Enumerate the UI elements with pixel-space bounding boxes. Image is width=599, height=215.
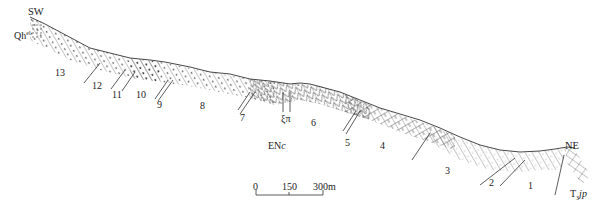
layer-band-3-1 [430,125,567,172]
unit-label-enc-italic: c [281,140,285,151]
boundary-lines [84,63,564,195]
cross-section-svg [0,0,599,215]
layer-label-3: 3 [445,166,450,176]
layer-label-13: 13 [55,68,65,78]
unit-label-xipi: ξπ [281,114,291,124]
scale-tick-150: 150 [282,182,297,192]
cross-section-diagram: SW NE Qhel 13 12 11 10 9 8 7 6 5 4 3 2 1… [0,0,599,215]
scale-tick-0: 0 [253,182,258,192]
orientation-sw-label: SW [28,7,44,18]
layer-label-6: 6 [311,118,316,128]
layer-label-5: 5 [345,138,350,148]
unit-label-t3jp: T3jp [570,189,587,201]
unit-label-qh-sup: el [26,30,30,36]
layer-label-9: 9 [157,100,162,110]
unit-label-qh: Qhel [14,30,31,41]
layer-label-11: 11 [112,90,122,100]
unit-label-enc-main: EN [268,140,281,151]
layer-label-4: 4 [380,141,385,151]
layer-label-12: 12 [92,81,102,91]
layer-band-t3jp [565,148,590,185]
orientation-ne-label: NE [565,141,579,152]
layer-label-1: 1 [528,181,533,191]
layer-band-qh [30,17,42,40]
unit-label-enc: ENc [268,141,286,151]
layer-label-8: 8 [200,101,205,111]
unit-label-qh-main: Qh [14,30,26,41]
unit-label-t3jp-italic: jp [579,188,587,199]
layer-label-2: 2 [489,178,494,188]
layer-label-10: 10 [136,90,146,100]
layer-label-7: 7 [240,113,245,123]
scale-tick-300m: 300m [313,182,336,192]
